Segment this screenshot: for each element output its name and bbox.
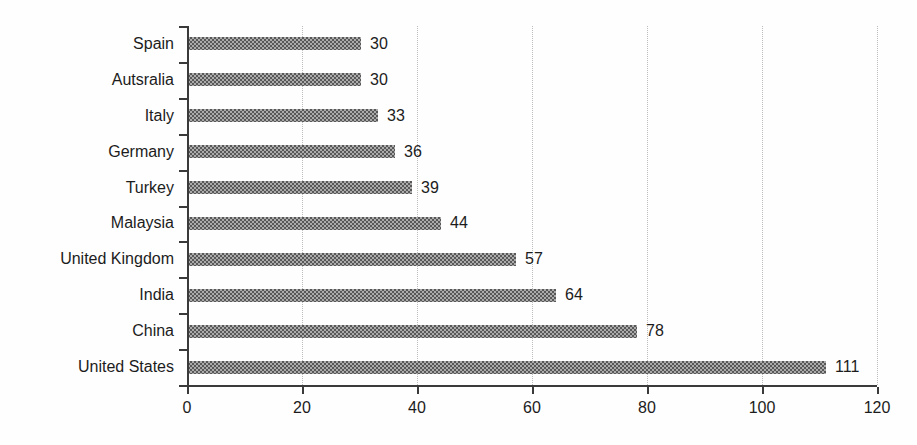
y-axis-line <box>187 26 189 393</box>
x-tick-label: 120 <box>864 398 891 418</box>
x-axis-tick <box>877 387 879 394</box>
gridline <box>877 26 878 385</box>
x-axis-tick <box>647 387 649 394</box>
category-label: Autsralia <box>20 70 174 90</box>
bar-value-label: 78 <box>646 321 664 341</box>
bar-value-label: 30 <box>370 70 388 90</box>
bar-value-label: 30 <box>370 34 388 54</box>
category-label: United States <box>20 357 174 377</box>
category-label: United Kingdom <box>20 249 174 269</box>
x-tick-label: 100 <box>749 398 776 418</box>
bar <box>188 145 395 158</box>
bar-value-label: 57 <box>525 249 543 269</box>
bar <box>188 289 556 302</box>
y-axis-tick <box>179 206 187 208</box>
x-axis-tick <box>187 387 189 394</box>
bar-value-label: 33 <box>387 106 405 126</box>
bar <box>188 325 637 338</box>
y-axis-tick <box>179 277 187 279</box>
bar-value-label: 64 <box>565 285 583 305</box>
bar <box>188 361 826 374</box>
bar <box>188 181 412 194</box>
plot-area: 30Spain30Autsralia33Italy36Germany39Turk… <box>0 0 917 445</box>
x-axis-line <box>179 385 877 387</box>
category-label: Spain <box>20 34 174 54</box>
category-label: Turkey <box>20 178 174 198</box>
x-tick-label: 40 <box>408 398 426 418</box>
y-axis-tick <box>179 62 187 64</box>
category-label: Malaysia <box>20 213 174 233</box>
bar-value-label: 36 <box>404 142 422 162</box>
y-axis-tick <box>179 241 187 243</box>
bar <box>188 217 441 230</box>
bar <box>188 37 361 50</box>
y-axis-tick <box>179 26 187 28</box>
x-axis-tick <box>762 387 764 394</box>
x-tick-label: 60 <box>523 398 541 418</box>
category-label: India <box>20 285 174 305</box>
category-label: Germany <box>20 142 174 162</box>
y-axis-tick <box>179 313 187 315</box>
bar <box>188 253 516 266</box>
bar <box>188 109 378 122</box>
y-axis-tick <box>179 349 187 351</box>
gridline <box>762 26 763 385</box>
x-axis-tick <box>417 387 419 394</box>
bar <box>188 73 361 86</box>
bar-value-label: 39 <box>421 178 439 198</box>
x-axis-tick <box>302 387 304 394</box>
category-label: China <box>20 321 174 341</box>
x-tick-label: 20 <box>293 398 311 418</box>
x-tick-label: 0 <box>183 398 192 418</box>
x-tick-label: 80 <box>638 398 656 418</box>
x-axis-tick <box>532 387 534 394</box>
bar-chart-figure: 30Spain30Autsralia33Italy36Germany39Turk… <box>0 0 917 445</box>
y-axis-tick <box>179 170 187 172</box>
bar-value-label: 44 <box>450 213 468 233</box>
category-label: Italy <box>20 106 174 126</box>
y-axis-tick <box>179 98 187 100</box>
y-axis-tick <box>179 134 187 136</box>
bar-value-label: 111 <box>835 357 859 377</box>
